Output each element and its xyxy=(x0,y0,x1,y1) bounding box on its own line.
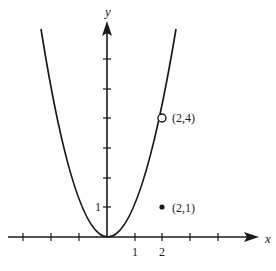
x-axis-label: x xyxy=(264,231,271,246)
x-tick-label-1: 1 xyxy=(132,245,138,259)
x-tick-label-2: 2 xyxy=(159,245,165,259)
parabola-curve xyxy=(41,29,176,237)
filled-point-2-1 xyxy=(159,204,164,209)
function-graph: 1 2 x 1 y (2,4) (2,1) xyxy=(0,0,276,271)
x-axis: 1 2 x xyxy=(8,231,271,259)
open-point-label: (2,4) xyxy=(172,111,195,125)
open-point-2-4 xyxy=(158,114,166,122)
y-axis-label: y xyxy=(103,4,111,19)
y-axis: 1 y xyxy=(95,4,112,237)
y-tick-label-1: 1 xyxy=(95,200,101,214)
filled-point-label: (2,1) xyxy=(172,201,195,215)
